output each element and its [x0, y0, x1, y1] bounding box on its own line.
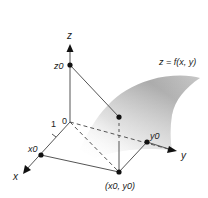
z0-label: z0 — [53, 61, 64, 71]
surface-label: z = f(x, y) — [158, 57, 196, 67]
origin-label: 0 — [62, 116, 67, 126]
y0-label: y0 — [149, 131, 160, 141]
base-point-label: (x0, y0) — [105, 181, 135, 191]
point-x0 — [38, 152, 43, 157]
x-tick-1 — [52, 134, 56, 137]
surface — [80, 76, 200, 158]
x-axis-label: x — [12, 171, 19, 182]
point-base — [116, 169, 121, 174]
x-tick-label: 1 — [51, 119, 56, 129]
z-axis-label: z — [66, 30, 72, 41]
diagram-canvas: z z0 0 1 x0 x y0 y (x0, y0) z = f(x, y) — [0, 0, 208, 198]
z0-to-surface-point — [70, 65, 119, 117]
y-axis-label: y — [180, 150, 187, 161]
z-arrow-icon — [67, 44, 74, 52]
x0-label: x0 — [27, 144, 38, 154]
x0-to-base — [41, 155, 119, 172]
point-y0 — [144, 139, 149, 144]
point-z0 — [67, 62, 72, 67]
point-surface — [116, 114, 121, 119]
